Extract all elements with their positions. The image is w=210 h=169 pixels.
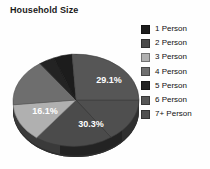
pie-chart-figure: Household Size [0, 0, 210, 169]
legend-swatch-icon-6-person [141, 96, 150, 105]
data-label-3-person: 16.1% [32, 106, 58, 116]
legend-label-1-person: 1 Person [155, 25, 187, 33]
data-label-2-person: 30.3% [78, 119, 104, 129]
legend-item-1-person[interactable]: 1 Person [141, 22, 210, 36]
legend-label-5-person: 5 Person [155, 82, 187, 90]
legend-swatch-icon-4-person [141, 67, 150, 76]
legend-swatch-icon-1-person [141, 25, 150, 34]
legend-item-4-person[interactable]: 4 Person [141, 65, 210, 79]
legend-label-2-person: 2 Person [155, 39, 187, 47]
pie-svg: 29.1% 30.3% 16.1% [10, 38, 142, 166]
page-title: Household Size [10, 5, 78, 15]
legend-swatch-icon-3-person [141, 53, 150, 62]
legend-label-6-person: 6 Person [155, 96, 187, 104]
legend-item-3-person[interactable]: 3 Person [141, 50, 210, 64]
legend-swatch-icon-2-person [141, 39, 150, 48]
legend-label-3-person: 3 Person [155, 53, 187, 61]
legend-item-2-person[interactable]: 2 Person [141, 36, 210, 50]
data-label-7plus-person: 29.1% [96, 75, 122, 85]
legend-item-5-person[interactable]: 5 Person [141, 79, 210, 93]
pie-plot-area: 29.1% 30.3% 16.1% [10, 38, 142, 166]
legend-swatch-icon-7plus-person [141, 110, 150, 119]
legend-item-6-person[interactable]: 6 Person [141, 93, 210, 107]
legend-label-7plus-person: 7+ Person [155, 110, 192, 118]
legend-swatch-icon-5-person [141, 81, 150, 90]
chart-legend: 1 Person 2 Person 3 Person 4 Person 5 Pe… [141, 22, 210, 121]
legend-item-7plus-person[interactable]: 7+ Person [141, 107, 210, 121]
legend-label-4-person: 4 Person [155, 68, 187, 76]
